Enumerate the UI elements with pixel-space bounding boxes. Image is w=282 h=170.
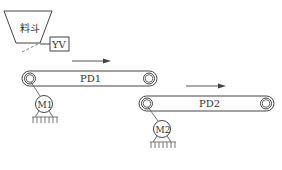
hopper: 料斗 <box>4 11 52 52</box>
belt-pd2-label: PD2 <box>199 98 220 109</box>
motor-m2-label: M2 <box>156 125 171 135</box>
belt-pd2: PD2 <box>139 96 274 111</box>
motor-m1-label: M1 <box>38 100 53 110</box>
valve-yv: YV <box>40 37 69 51</box>
motor-m1: M1 <box>31 82 58 123</box>
direction-arrow-pd1 <box>72 59 111 64</box>
belt-pd1: PD1 <box>22 71 157 86</box>
direction-arrow-pd2 <box>186 84 226 89</box>
conveyor-diagram: 料斗 YV PD1 M1 <box>0 0 282 170</box>
hopper-label: 料斗 <box>20 22 40 34</box>
ground-base-m2 <box>150 142 176 148</box>
valve-label: YV <box>51 39 67 50</box>
motor-m2: M2 <box>148 107 176 148</box>
ground-base-m1 <box>32 117 58 123</box>
belt-pd1-label: PD1 <box>80 73 101 84</box>
